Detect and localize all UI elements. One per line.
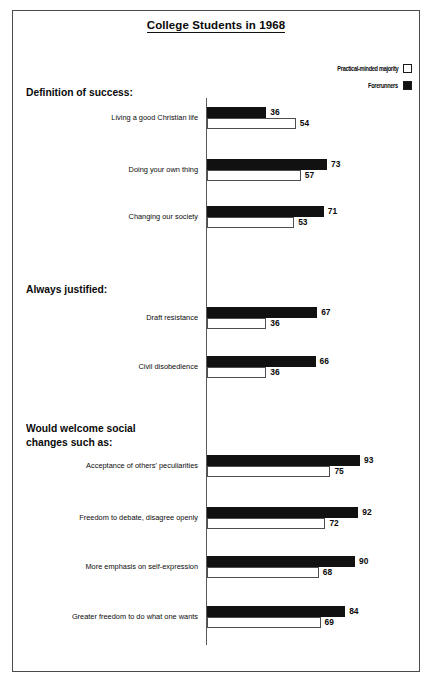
bar-value-forerunners: 71 bbox=[328, 206, 337, 217]
section-heading-definition-of-success: Definition of success: bbox=[26, 86, 133, 100]
bar-forerunners bbox=[207, 606, 345, 617]
section-heading-always-justified: Always justified: bbox=[26, 283, 107, 297]
bar-majority bbox=[207, 170, 301, 181]
bar-forerunners bbox=[207, 356, 316, 367]
category-label: Doing your own thing bbox=[18, 165, 198, 175]
category-label: Civil disobedience bbox=[18, 362, 198, 372]
bar-majority bbox=[207, 567, 319, 578]
category-label: Draft resistance bbox=[18, 313, 198, 323]
bar-group-row: Doing your own thing7357 bbox=[13, 159, 419, 185]
category-label: Freedom to debate, disagree openly bbox=[18, 513, 198, 523]
category-label: Living a good Christian life bbox=[18, 113, 198, 123]
bar-majority bbox=[207, 367, 266, 378]
category-label: Acceptance of others' peculiarities bbox=[18, 461, 198, 471]
legend-label-forerunners: Forerunners bbox=[368, 82, 398, 89]
category-label: More emphasis on self-expression bbox=[18, 562, 198, 572]
bar-forerunners bbox=[207, 556, 355, 567]
bar-value-forerunners: 67 bbox=[321, 307, 330, 318]
bar-majority bbox=[207, 217, 294, 228]
legend-swatch-open-square-icon bbox=[403, 64, 412, 73]
bar-value-forerunners: 36 bbox=[270, 107, 279, 118]
bar-majority bbox=[207, 118, 296, 129]
page-title: College Students in 1968 bbox=[13, 19, 419, 31]
bar-value-majority: 69 bbox=[325, 617, 334, 628]
bar-value-majority: 36 bbox=[270, 367, 279, 378]
bar-value-forerunners: 90 bbox=[359, 556, 368, 567]
bar-group-row: Freedom to debate, disagree openly9272 bbox=[13, 507, 419, 533]
bar-forerunners bbox=[207, 206, 324, 217]
bar-majority bbox=[207, 518, 325, 529]
bar-value-forerunners: 92 bbox=[362, 507, 371, 518]
bar-forerunners bbox=[207, 307, 317, 318]
bar-majority bbox=[207, 318, 266, 329]
bar-group-row: Changing our society7153 bbox=[13, 206, 419, 232]
category-label: Greater freedom to do what one wants bbox=[18, 612, 198, 622]
bar-forerunners bbox=[207, 107, 266, 118]
legend: Practical-minded majority Forerunners bbox=[252, 61, 412, 95]
chart-figure: College Students in 1968 Practical-minde… bbox=[12, 10, 420, 672]
chart-title-text: College Students in 1968 bbox=[147, 19, 286, 33]
bar-group-row: Civil disobedience6636 bbox=[13, 356, 419, 382]
bar-value-majority: 57 bbox=[305, 170, 314, 181]
bar-forerunners bbox=[207, 455, 360, 466]
bar-value-majority: 68 bbox=[323, 567, 332, 578]
bar-group-row: Acceptance of others' peculiarities9375 bbox=[13, 455, 419, 481]
legend-entry-forerunners: Forerunners bbox=[252, 78, 412, 92]
bar-value-majority: 72 bbox=[329, 518, 338, 529]
bar-value-forerunners: 93 bbox=[364, 455, 373, 466]
bar-majority bbox=[207, 466, 330, 477]
bar-value-majority: 54 bbox=[300, 118, 309, 129]
bar-value-majority: 53 bbox=[298, 217, 307, 228]
bar-value-forerunners: 66 bbox=[320, 356, 329, 367]
legend-entry-majority: Practical-minded majority bbox=[252, 61, 412, 75]
bar-forerunners bbox=[207, 159, 327, 170]
bar-forerunners bbox=[207, 507, 358, 518]
bar-value-majority: 75 bbox=[334, 466, 343, 477]
bar-value-forerunners: 84 bbox=[349, 606, 358, 617]
bar-majority bbox=[207, 617, 321, 628]
category-label: Changing our society bbox=[18, 212, 198, 222]
legend-swatch-filled-square-icon bbox=[403, 81, 412, 90]
section-heading-would-welcome-social-changes: Would welcome social changes such as: bbox=[26, 422, 136, 449]
legend-label-majority: Practical-minded majority bbox=[337, 65, 398, 72]
bar-group-row: Living a good Christian life3654 bbox=[13, 107, 419, 133]
bar-value-majority: 36 bbox=[270, 318, 279, 329]
bar-value-forerunners: 73 bbox=[331, 159, 340, 170]
bar-group-row: More emphasis on self-expression9068 bbox=[13, 556, 419, 582]
bar-group-row: Greater freedom to do what one wants8469 bbox=[13, 606, 419, 632]
bar-group-row: Draft resistance6736 bbox=[13, 307, 419, 333]
